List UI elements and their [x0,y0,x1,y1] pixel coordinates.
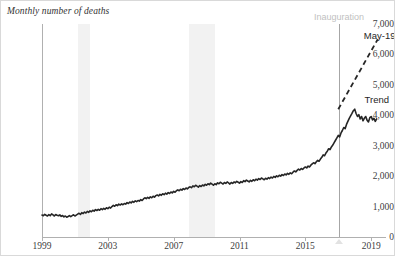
plot-area [1,1,395,256]
may-19-label: May-19 [364,30,395,41]
trend-label: Trend [365,94,389,105]
chart-figure: Monthly number of deaths 01,0002,0003,00… [0,0,395,256]
deaths-line-series [42,109,377,217]
